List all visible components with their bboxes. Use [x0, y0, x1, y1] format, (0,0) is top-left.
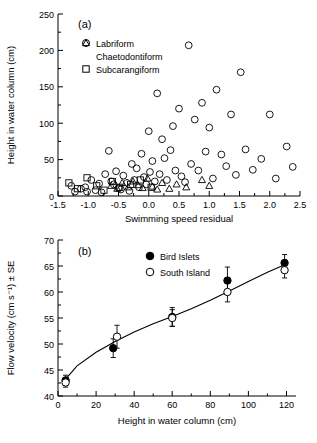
panel-a-xtick-labels: -1.5 -1.0 -0.5 0.0 0.5 1.0 1.5 2.0 2.5	[50, 200, 306, 210]
ytick-label: 40	[44, 392, 54, 402]
ytick-label: 50	[44, 155, 54, 165]
scatter-point-circle	[182, 179, 189, 186]
legend-label: South Island	[160, 268, 210, 278]
scatter-point-circle	[266, 111, 273, 118]
scatter-point-circle	[242, 146, 249, 153]
xtick-label: 0.0	[142, 200, 155, 210]
scatter-point-triangle	[125, 184, 132, 190]
panel-a-ytick-labels: 0 50 100 150 200 250	[39, 10, 54, 202]
xtick-label: 100	[241, 400, 256, 410]
scatter-point-circle	[145, 128, 152, 135]
legend-label: Subcarangiform	[96, 65, 160, 75]
xtick-label: 80	[205, 400, 215, 410]
scatter-point-circle	[98, 189, 105, 196]
panel-a-svg: 0 50 100 150 200 250 -1.5 -1.0 -0.5 0.0 …	[0, 0, 317, 228]
data-point-open-circle	[224, 288, 231, 295]
scatter-point-triangle	[183, 184, 190, 190]
figure-container: 0 50 100 150 200 250 -1.5 -1.0 -0.5 0.0 …	[0, 0, 317, 443]
scatter-point-circle	[195, 167, 202, 174]
panel-a-xlabel: Swimming speed residual	[125, 213, 233, 224]
ytick-label: 50	[44, 340, 54, 350]
scatter-point-circle	[283, 143, 290, 150]
scatter-point-circle	[206, 124, 213, 131]
scatter-point-circle	[167, 147, 174, 154]
scatter-point-circle	[289, 163, 296, 170]
xtick-label: 1.5	[233, 200, 246, 210]
scatter-point-circle	[170, 123, 177, 130]
scatter-point-circle	[133, 165, 140, 172]
panel-b-legend: Bird Islets South Island	[146, 252, 210, 278]
scatter-point-circle	[159, 136, 166, 143]
scatter-point-circle	[138, 150, 145, 157]
xtick-label: 20	[91, 400, 101, 410]
scatter-point-circle	[172, 167, 179, 174]
legend-label: Labriform	[96, 39, 134, 49]
scatter-point-circle	[258, 155, 265, 162]
scatter-point-circle	[272, 175, 279, 182]
scatter-point-circle	[120, 172, 127, 179]
scatter-point-circle	[199, 99, 206, 106]
data-point-open-circle	[113, 333, 120, 340]
panel-a: 0 50 100 150 200 250 -1.5 -1.0 -0.5 0.0 …	[0, 0, 317, 228]
scatter-point-circle	[223, 163, 230, 170]
ytick-label: 100	[39, 119, 54, 129]
scatter-point-circle	[149, 158, 156, 165]
panel-b-fit-curve	[64, 264, 287, 382]
scatter-point-circle	[96, 180, 103, 187]
xtick-label: 2.0	[263, 200, 276, 210]
data-point-open-circle	[281, 266, 288, 273]
fit-curve-line	[64, 264, 287, 382]
panel-a-tag: (a)	[78, 18, 91, 30]
ytick-label: 60	[44, 288, 54, 298]
ytick-label: 45	[44, 366, 54, 376]
scatter-point-circle	[126, 188, 133, 195]
scatter-point-circle	[237, 69, 244, 76]
panel-b-xtick-labels: 0 20 40 60 80 100 120	[55, 400, 294, 410]
panel-b-svg: 40 45 50 55 60 65 70 0 20 40 60 80 100 1…	[0, 228, 317, 443]
scatter-point-circle	[113, 168, 120, 175]
xtick-label: 60	[167, 400, 177, 410]
xtick-label: -1.5	[50, 200, 66, 210]
legend-label: Chaetodontiform	[96, 52, 163, 62]
scatter-point-circle	[232, 171, 239, 178]
scatter-point-circle	[213, 86, 220, 93]
xtick-label: 40	[129, 400, 139, 410]
data-point-open-circle	[62, 379, 69, 386]
scatter-point-triangle	[166, 185, 173, 191]
scatter-point-circle	[228, 111, 235, 118]
square-marker-icon	[83, 66, 89, 72]
scatter-point-circle	[191, 116, 198, 123]
xtick-label: 2.5	[294, 200, 307, 210]
panel-b-tag: (b)	[78, 245, 91, 257]
scatter-point-circle	[176, 105, 183, 112]
scatter-point-circle	[188, 161, 195, 168]
filled-circle-marker-icon	[146, 252, 154, 260]
ytick-label: 250	[39, 10, 54, 20]
scatter-point-triangle	[173, 181, 180, 187]
panel-b: 40 45 50 55 60 65 70 0 20 40 60 80 100 1…	[0, 228, 317, 443]
xtick-label: -0.5	[111, 200, 127, 210]
scatter-point-circle	[209, 175, 216, 182]
xtick-label: 0.5	[173, 200, 186, 210]
scatter-point-triangle	[198, 176, 205, 182]
ytick-label: 200	[39, 46, 54, 56]
ytick-label: 65	[44, 262, 54, 272]
panel-a-ylabel: Height in water column (cm)	[5, 46, 16, 164]
scatter-point-circle	[161, 155, 168, 162]
legend-label: Bird Islets	[160, 252, 200, 262]
xtick-label: 1.0	[203, 200, 216, 210]
panel-b-ytick-labels: 40 45 50 55 60 65 70	[44, 236, 54, 402]
scatter-point-circle	[84, 188, 91, 195]
scatter-point-circle	[154, 90, 161, 97]
ytick-label: 55	[44, 314, 54, 324]
scatter-point-circle	[105, 147, 112, 154]
xtick-label: -1.0	[80, 200, 96, 210]
scatter-point-circle	[185, 42, 192, 49]
panel-b-ylabel: Flow velocity (cm s⁻¹) ± SE	[5, 261, 16, 376]
xtick-label: 0	[55, 400, 60, 410]
scatter-point-circle	[82, 184, 89, 191]
scatter-point-circle	[102, 171, 109, 178]
panel-b-xlabel: Height in water column (cm)	[118, 415, 236, 426]
scatter-point-circle	[164, 177, 171, 184]
open-circle-marker-icon	[146, 268, 154, 276]
